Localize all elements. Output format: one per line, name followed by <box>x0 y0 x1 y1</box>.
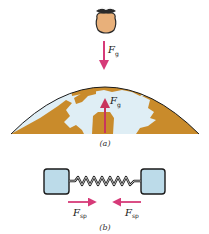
right-block <box>141 169 165 194</box>
left-block <box>44 169 69 194</box>
panel-a: Fg Fg (a) <box>11 8 200 149</box>
force-label-fsp-right: Fsp <box>124 207 139 220</box>
newtons-third-law-diagram: Fg Fg (a) <box>0 0 209 234</box>
apple-icon <box>96 8 116 34</box>
force-label-fsp-left: Fsp <box>72 207 87 220</box>
panel-b: Fsp Fsp (b) <box>44 169 165 232</box>
caption-a: (a) <box>99 139 110 148</box>
force-label-fg-apple: Fg <box>107 44 119 58</box>
caption-b: (b) <box>99 223 110 232</box>
spring <box>69 177 141 185</box>
